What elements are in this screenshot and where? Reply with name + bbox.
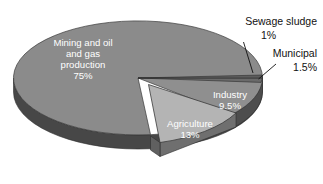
municipal-label-value: 1.5% — [293, 61, 317, 73]
mining-label-line-1: Mining and oil — [53, 37, 112, 48]
mining-label-line-3: production — [61, 59, 106, 70]
sewage-sludge-label: Sewage sludge 1% — [245, 15, 317, 41]
industry-label-name: Industry — [213, 89, 247, 100]
sewage-sludge-label-name: Sewage sludge — [245, 15, 317, 27]
mining-label-value: 75% — [73, 70, 93, 81]
agriculture-label-name: Agriculture — [167, 118, 213, 129]
mining-label-line-2: and gas — [66, 48, 100, 59]
agriculture-label-value: 13% — [180, 129, 200, 140]
industry-label-value: 9.5% — [219, 100, 241, 111]
pie-chart: Mining and oil and gas production 75% Ag… — [0, 0, 323, 184]
pie-chart-svg: Mining and oil and gas production 75% Ag… — [0, 0, 323, 184]
sewage-sludge-label-value: 1% — [261, 29, 276, 41]
municipal-label-name: Municipal — [273, 47, 317, 59]
municipal-label: Municipal 1.5% — [273, 47, 317, 73]
